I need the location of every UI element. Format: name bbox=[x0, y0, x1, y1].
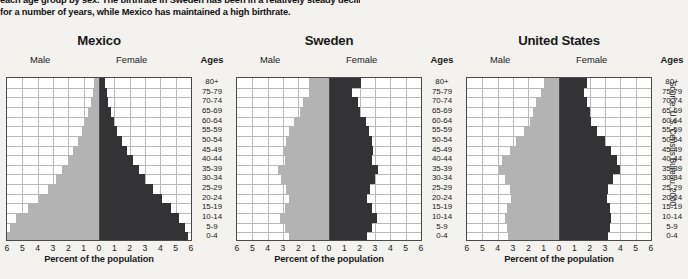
male-bar bbox=[510, 184, 559, 194]
male-bar bbox=[39, 194, 99, 204]
female-bar bbox=[99, 107, 111, 117]
x-axis-tick: 4 bbox=[35, 243, 40, 253]
female-bar bbox=[99, 136, 122, 146]
female-bar bbox=[559, 136, 605, 146]
x-axis-tick: 5 bbox=[633, 243, 638, 253]
male-bar bbox=[85, 117, 99, 127]
female-bar bbox=[99, 194, 162, 204]
female-series-label-united_states: Female bbox=[576, 54, 639, 65]
female-bar bbox=[559, 146, 611, 156]
x-axis-tick: 6 bbox=[465, 243, 470, 253]
female-bar bbox=[559, 184, 608, 194]
x-axis-tick: 5 bbox=[20, 243, 25, 253]
x-axis-tick: 3 bbox=[511, 243, 516, 253]
female-bar bbox=[559, 174, 613, 184]
age-group-label: 0-4 bbox=[422, 231, 462, 241]
female-bar bbox=[329, 155, 372, 165]
male-bar bbox=[544, 78, 559, 88]
female-bar bbox=[329, 194, 367, 204]
female-bar bbox=[559, 232, 608, 241]
x-axis-tick: 2 bbox=[127, 243, 132, 253]
age-group-label: 10-14 bbox=[192, 212, 232, 222]
age-group-label: 5-9 bbox=[652, 222, 688, 232]
age-group-label: 50-54 bbox=[422, 135, 462, 145]
female-bar bbox=[99, 88, 107, 98]
age-group-label: 55-59 bbox=[422, 125, 462, 135]
age-group-label: 60-64 bbox=[192, 116, 232, 126]
age-group-label: 60-64 bbox=[652, 116, 688, 126]
age-group-label: 80+ bbox=[422, 77, 462, 87]
male-bar bbox=[286, 184, 329, 194]
female-bar bbox=[99, 165, 139, 175]
female-bar bbox=[559, 126, 597, 136]
male-bar bbox=[7, 232, 99, 241]
female-bar bbox=[559, 117, 591, 127]
x-axis-tick: 1 bbox=[81, 243, 86, 253]
male-bar bbox=[286, 136, 329, 146]
age-group-label: 55-59 bbox=[652, 125, 688, 135]
age-group-label: 15-19 bbox=[192, 202, 232, 212]
x-axis-tick: 2 bbox=[296, 243, 301, 253]
axis-center-line bbox=[559, 78, 560, 240]
age-group-label: 60-64 bbox=[422, 116, 462, 126]
age-group-label: 5-9 bbox=[422, 222, 462, 232]
female-bar bbox=[559, 155, 617, 165]
ages-list: 80+75-7970-7465-6960-6455-5950-5445-4940… bbox=[192, 77, 232, 241]
male-bar bbox=[499, 165, 559, 175]
age-group-label: 40-44 bbox=[422, 154, 462, 164]
age-group-label: 75-79 bbox=[652, 87, 688, 97]
female-bar bbox=[99, 184, 153, 194]
male-bar bbox=[28, 203, 99, 213]
x-axis-tick: 6 bbox=[419, 243, 424, 253]
x-axis-tick: 4 bbox=[265, 243, 270, 253]
male-bar bbox=[294, 117, 329, 127]
x-axis-tick: 0 bbox=[327, 243, 332, 253]
male-bar bbox=[524, 126, 559, 136]
male-bar bbox=[285, 155, 329, 165]
female-series-label-mexico: Female bbox=[116, 54, 179, 65]
female-bar bbox=[99, 146, 127, 156]
x-axis-tick: 6 bbox=[5, 243, 10, 253]
male-bar bbox=[289, 194, 329, 204]
female-bar bbox=[559, 213, 611, 223]
female-bar bbox=[329, 136, 372, 146]
male-bar bbox=[536, 97, 559, 107]
age-group-label: 55-59 bbox=[192, 125, 232, 135]
pyramid-panel-united_states: United StatesMaleFemale6543210123456Perc… bbox=[466, 0, 663, 279]
female-bar bbox=[559, 88, 584, 98]
age-group-label: 65-69 bbox=[422, 106, 462, 116]
age-group-label: 0-4 bbox=[652, 231, 688, 241]
male-bar bbox=[530, 117, 559, 127]
x-axis-tick: 1 bbox=[342, 243, 347, 253]
female-bar bbox=[99, 223, 185, 233]
male-bar bbox=[505, 213, 559, 223]
female-bar bbox=[329, 88, 352, 98]
x-axis-tick: 4 bbox=[495, 243, 500, 253]
age-group-label: 20-24 bbox=[192, 193, 232, 203]
ages-header: Ages bbox=[652, 54, 688, 65]
female-bar bbox=[99, 203, 171, 213]
male-bar bbox=[516, 136, 559, 146]
age-group-label: 25-29 bbox=[652, 183, 688, 193]
male-bar bbox=[309, 78, 329, 88]
x-axis-tick: 5 bbox=[250, 243, 255, 253]
age-group-label: 20-24 bbox=[652, 193, 688, 203]
male-bar bbox=[68, 155, 99, 165]
axis-center-line bbox=[329, 78, 330, 240]
male-bar bbox=[289, 126, 329, 136]
panel-title-united_states: United States bbox=[466, 33, 652, 48]
male-bar bbox=[281, 174, 329, 184]
male-bar bbox=[507, 223, 559, 233]
female-bar bbox=[99, 117, 114, 127]
ages-header: Ages bbox=[422, 54, 462, 65]
x-axis-tick: 4 bbox=[158, 243, 163, 253]
x-axis-tick: 3 bbox=[281, 243, 286, 253]
x-axis-tick: 0 bbox=[557, 243, 562, 253]
age-group-label: 80+ bbox=[652, 77, 688, 87]
x-axis-tick: 5 bbox=[173, 243, 178, 253]
age-group-label: 40-44 bbox=[192, 154, 232, 164]
age-group-label: 35-39 bbox=[422, 164, 462, 174]
male-bar bbox=[533, 107, 559, 117]
female-bar bbox=[329, 174, 375, 184]
